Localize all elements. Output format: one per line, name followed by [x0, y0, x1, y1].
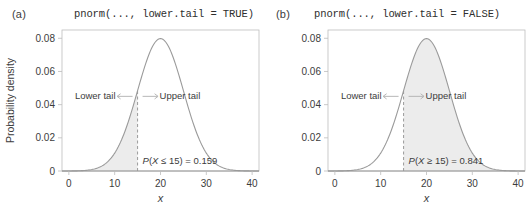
y-tick-label: 0	[49, 166, 55, 177]
x-tick-label: 20	[155, 178, 167, 189]
x-tick-label: 30	[201, 178, 213, 189]
y-tick-label: 0	[315, 166, 321, 177]
y-tick-label: 0.08	[302, 33, 322, 44]
lower-tail-label: Lower tail	[341, 90, 382, 101]
x-axis-title: x	[423, 192, 430, 204]
y-tick-label: 0.02	[36, 132, 56, 143]
x-tick-label: 0	[66, 178, 72, 189]
x-tick-label: 0	[332, 178, 338, 189]
x-tick-label: 40	[513, 178, 525, 189]
y-tick-label: 0.04	[36, 99, 56, 110]
probability-label: P(X ≥ 15) = 0.841	[409, 155, 484, 166]
upper-tail-label: Upper tail	[160, 90, 201, 101]
x-tick-label: 10	[375, 178, 387, 189]
figure-pnorm-tails: (a) pnorm(..., lower.tail = TRUE) 010203…	[0, 0, 531, 219]
x-tick-label: 30	[467, 178, 479, 189]
panel-a: (a) pnorm(..., lower.tail = TRUE) 010203…	[0, 0, 265, 219]
panel-a-plot: 01020304000.020.040.060.08xProbability d…	[0, 0, 265, 219]
lower-tail-label: Lower tail	[75, 90, 116, 101]
shaded-region	[404, 39, 525, 171]
x-tick-label: 10	[109, 178, 121, 189]
upper-tail-label: Upper tail	[426, 90, 467, 101]
x-tick-label: 20	[421, 178, 433, 189]
y-tick-label: 0.02	[302, 132, 322, 143]
y-tick-label: 0.06	[302, 66, 322, 77]
panel-b: (b) pnorm(..., lower.tail = FALSE) 01020…	[266, 0, 531, 219]
y-tick-label: 0.06	[36, 66, 56, 77]
panel-b-plot: 01020304000.020.040.060.08xLower tailUpp…	[266, 0, 531, 219]
y-tick-label: 0.04	[302, 99, 322, 110]
y-tick-label: 0.08	[36, 33, 56, 44]
x-tick-label: 40	[247, 178, 259, 189]
shaded-region	[62, 91, 138, 171]
density-curve	[62, 39, 259, 171]
probability-label: P(X ≤ 15) = 0.159	[143, 155, 218, 166]
x-axis-title: x	[157, 192, 164, 204]
y-axis-title: Probability density	[4, 57, 16, 143]
